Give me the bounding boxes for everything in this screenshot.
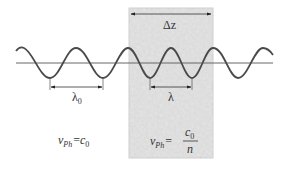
thickness-label: Δz — [163, 18, 176, 32]
vacuum-wavelength-dimension — [50, 79, 103, 90]
vacuum-wavelength-label: λ0 — [72, 90, 82, 106]
vacuum-velocity-equation: vPh=c0 — [58, 133, 89, 149]
medium-velocity-denominator: n — [187, 142, 193, 156]
medium-wavelength-label: λ — [168, 90, 174, 104]
wave-refraction-diagram: Δz λ0 λ vPh=c0 vPh= c0 n — [0, 0, 288, 171]
